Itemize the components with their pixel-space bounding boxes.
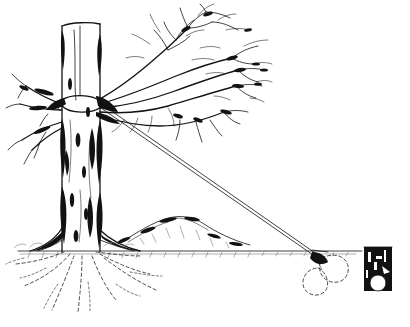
illustration-canvas bbox=[0, 0, 410, 327]
tree-guying-figure bbox=[0, 0, 410, 327]
log-post bbox=[364, 247, 392, 291]
